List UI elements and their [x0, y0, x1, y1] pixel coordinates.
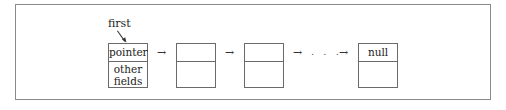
- node-other-fields: [359, 62, 397, 63]
- head-label-first: first: [108, 17, 131, 30]
- list-node-3: [244, 43, 284, 88]
- node-pointer-field: [177, 44, 215, 62]
- ellipsis: . . .: [311, 46, 342, 57]
- node-pointer-field: pointer: [109, 44, 147, 62]
- arrow-right-icon: →: [225, 47, 234, 58]
- node-other-fields: [177, 62, 215, 63]
- node-other-fields: other fields: [109, 62, 147, 87]
- arrow-right-icon: →: [157, 47, 166, 58]
- arrow-right-icon: →: [293, 47, 302, 58]
- list-node-1: pointer other fields: [108, 43, 148, 88]
- arrow-right-icon: →: [339, 47, 348, 58]
- node-other-fields: [245, 62, 283, 63]
- list-node-last: null: [358, 43, 398, 88]
- node-pointer-field: [245, 44, 283, 62]
- node-pointer-field-null: null: [359, 44, 397, 62]
- list-node-2: [176, 43, 216, 88]
